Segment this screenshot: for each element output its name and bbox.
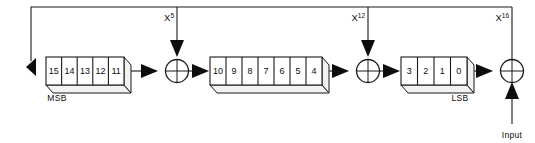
wire-reg1-to-xor1 <box>131 64 158 78</box>
register-cell: 5 <box>295 66 300 76</box>
register-block-1: 15 14 13 12 11 MSB <box>46 57 131 103</box>
tap-x12-text: X12 <box>351 12 365 24</box>
tap-x16-text: X16 <box>495 12 509 24</box>
wire-xor1-to-reg2 <box>189 64 210 78</box>
register-cell: 8 <box>247 66 252 76</box>
register-cell: 0 <box>456 66 461 76</box>
register-block-2-bottom-face <box>210 85 329 93</box>
register-cell: 15 <box>49 66 59 76</box>
register-cell: 2 <box>423 66 428 76</box>
tap-x5-arrowhead-icon <box>170 40 184 57</box>
register-cell: 7 <box>263 66 268 76</box>
register-cell: 10 <box>213 66 223 76</box>
input-arrowhead-icon <box>505 82 519 99</box>
tap-x12-exponent: 12 <box>358 12 366 19</box>
wire-reg3-to-xor3 <box>474 64 493 78</box>
register-cell: 14 <box>64 66 74 76</box>
tap-x12-arrowhead-icon <box>361 40 375 57</box>
arrowhead-icon <box>383 64 400 78</box>
register-cell: 1 <box>440 66 445 76</box>
register-cell: 13 <box>80 66 90 76</box>
arrowhead-icon <box>141 64 158 78</box>
register-cell: 6 <box>279 66 284 76</box>
input-label: Input <box>502 130 523 140</box>
register-cell: 3 <box>407 66 412 76</box>
lsb-label: LSB <box>452 93 469 103</box>
wire-xor2-to-reg3 <box>380 64 401 78</box>
lfsr-diagram: 15 14 13 12 11 MSB <box>0 0 535 143</box>
wire-reg2-to-xor2 <box>329 64 349 78</box>
tap-x5-text: X5 <box>164 12 174 24</box>
xor-gate-2 <box>357 60 380 83</box>
register-block-2: 10 9 8 7 6 5 4 <box>210 57 329 93</box>
tap-label-x16: X16 <box>495 12 509 24</box>
tap-x16-exponent: 16 <box>502 12 510 19</box>
register-cell: 4 <box>311 66 316 76</box>
msb-label: MSB <box>47 93 66 103</box>
register-block-1-bottom-face <box>46 85 131 93</box>
arrowhead-icon <box>192 64 209 78</box>
register-cell: 9 <box>231 66 236 76</box>
tap-label-x5: X5 <box>164 12 174 24</box>
register-block-3-bottom-face <box>401 85 474 93</box>
tap-x5-exponent: 5 <box>170 12 174 19</box>
lfsr-svg-canvas: 15 14 13 12 11 MSB <box>0 0 535 143</box>
feedback-wire-path <box>31 7 512 61</box>
register-block-3: 3 2 1 0 LSB <box>401 57 474 103</box>
tap-label-x12: X12 <box>351 12 365 24</box>
xor-gate-1 <box>166 60 189 83</box>
register-cell: 12 <box>96 66 106 76</box>
arrowhead-icon <box>476 64 493 78</box>
input-wire: Input <box>502 82 523 140</box>
register-cell: 11 <box>112 66 121 76</box>
arrowhead-icon <box>332 64 349 78</box>
xor-gate-3 <box>501 60 524 83</box>
